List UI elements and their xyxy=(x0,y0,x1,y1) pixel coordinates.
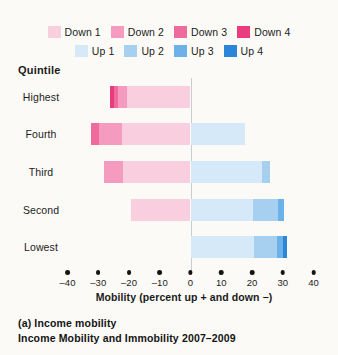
legend-label: Up 1 xyxy=(92,45,115,57)
bar-segment-up-1 xyxy=(191,199,253,221)
tick-dot-icon xyxy=(219,270,224,275)
bar-segment-up-2 xyxy=(254,236,276,258)
tick-dot-icon xyxy=(250,270,255,275)
bar-group xyxy=(0,199,338,221)
tick-dot-icon xyxy=(96,270,101,275)
x-axis-tick: 40 xyxy=(308,270,319,288)
caption-subtitle: (a) Income mobility xyxy=(18,316,236,331)
tick-label: 40 xyxy=(308,277,319,288)
chart-row: Second xyxy=(0,191,338,229)
bar-segment-up-2 xyxy=(262,161,269,183)
bar-segment-down-2 xyxy=(118,86,127,108)
bar-group xyxy=(0,236,338,258)
tick-label: 10 xyxy=(216,277,227,288)
tick-dot-icon xyxy=(280,270,285,275)
legend-label: Down 2 xyxy=(128,26,164,38)
chart-row: Lowest xyxy=(0,228,338,266)
bar-segment-up-2 xyxy=(253,199,278,221)
tick-dot-icon xyxy=(65,270,70,275)
legend-swatch-icon xyxy=(124,45,137,57)
bar-segment-down-1 xyxy=(127,86,191,108)
legend-swatch-icon xyxy=(224,45,237,57)
bar-segment-up-4 xyxy=(283,236,287,258)
legend-swatch-icon xyxy=(48,26,61,38)
y-axis-title: Quintile xyxy=(18,64,61,76)
legend-label: Down 4 xyxy=(254,26,290,38)
x-axis-tick: –20 xyxy=(121,270,137,288)
chart-row: Third xyxy=(0,153,338,191)
legend-swatch-icon xyxy=(75,45,88,57)
x-axis-tick: 0 xyxy=(188,270,193,288)
legend-label: Down 3 xyxy=(191,26,227,38)
tick-label: 20 xyxy=(247,277,258,288)
bar-segment-down-1 xyxy=(123,161,190,183)
x-axis-tick: –30 xyxy=(90,270,106,288)
legend-label: Up 4 xyxy=(241,45,264,57)
bar-segment-down-1 xyxy=(131,199,191,221)
caption-title: Income Mobility and Immobility 2007–2009 xyxy=(18,331,236,346)
x-axis-tick: –10 xyxy=(152,270,168,288)
tick-label: –20 xyxy=(121,277,137,288)
tick-dot-icon xyxy=(188,270,193,275)
tick-dot-icon xyxy=(157,270,162,275)
legend-item-down-1[interactable]: Down 1 xyxy=(48,26,101,38)
bar-segment-down-3 xyxy=(114,86,118,108)
legend-row: Down 1Down 2Down 3Down 4 xyxy=(0,22,338,41)
tick-label: –40 xyxy=(60,277,76,288)
legend-item-up-1[interactable]: Up 1 xyxy=(75,45,115,57)
bar-segment-up-1 xyxy=(191,236,255,258)
x-axis-tick: 30 xyxy=(277,270,288,288)
legend-swatch-icon xyxy=(237,26,250,38)
x-axis-tick: 20 xyxy=(247,270,258,288)
bar-segment-up-1 xyxy=(191,123,245,145)
bar-segment-down-1 xyxy=(122,123,191,145)
x-axis-tick: –40 xyxy=(60,270,76,288)
bar-group xyxy=(0,123,338,145)
tick-dot-icon xyxy=(311,270,316,275)
x-axis-title: Mobility (percent up + and down −) xyxy=(0,291,338,303)
x-axis-tick: 10 xyxy=(216,270,227,288)
bar-group xyxy=(0,161,338,183)
bar-segment-up-3 xyxy=(278,199,284,221)
tick-label: 30 xyxy=(277,277,288,288)
legend-item-up-4[interactable]: Up 4 xyxy=(224,45,264,57)
bar-segment-down-2 xyxy=(99,123,122,145)
legend-label: Up 3 xyxy=(191,45,214,57)
legend-row: Up 1Up 2Up 3Up 4 xyxy=(0,41,338,60)
legend-item-down-2[interactable]: Down 2 xyxy=(111,26,164,38)
legend-swatch-icon xyxy=(174,26,187,38)
bar-group xyxy=(0,86,338,108)
legend-label: Up 2 xyxy=(141,45,164,57)
chart-row: Fourth xyxy=(0,116,338,154)
legend-swatch-icon xyxy=(174,45,187,57)
bar-segment-down-4 xyxy=(110,86,114,108)
tick-label: –30 xyxy=(90,277,106,288)
bar-segment-down-2 xyxy=(104,161,123,183)
legend-item-down-4[interactable]: Down 4 xyxy=(237,26,290,38)
tick-label: –10 xyxy=(152,277,168,288)
chart-row: Highest xyxy=(0,78,338,116)
legend-swatch-icon xyxy=(111,26,124,38)
bar-segment-up-1 xyxy=(191,161,263,183)
tick-label: 0 xyxy=(188,277,193,288)
legend-item-up-2[interactable]: Up 2 xyxy=(124,45,164,57)
chart-legend: Down 1Down 2Down 3Down 4Up 1Up 2Up 3Up 4 xyxy=(0,22,338,60)
bar-segment-down-3 xyxy=(91,123,98,145)
plot-area: HighestFourthThirdSecondLowest xyxy=(0,78,338,266)
tick-dot-icon xyxy=(127,270,132,275)
legend-item-down-3[interactable]: Down 3 xyxy=(174,26,227,38)
figure-caption: (a) Income mobility Income Mobility and … xyxy=(18,316,236,346)
legend-label: Down 1 xyxy=(65,26,101,38)
legend-item-up-3[interactable]: Up 3 xyxy=(174,45,214,57)
